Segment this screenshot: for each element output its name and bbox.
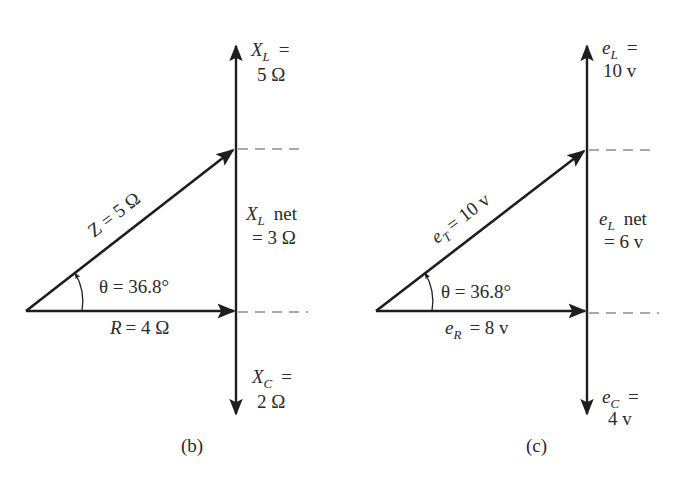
caption-c: (c) <box>526 435 547 457</box>
el-label: eL= <box>602 37 637 62</box>
angle-arc <box>75 273 83 311</box>
angle-label: θ = 36.8° <box>99 276 169 297</box>
xl-label: XL= <box>250 39 290 64</box>
xl-net-value: = 3 Ω <box>252 227 296 248</box>
xl-net-label: XLnet <box>245 203 298 228</box>
diagram-b-impedance: XL= 5 Ω XLnet = 3 Ω XC= 2 Ω Z = 5 Ω R= 4… <box>26 39 308 457</box>
el-value: 10 v <box>603 60 637 81</box>
diagram-c-voltage: eL= 10 v eLnet = 6 v eC= 4 v eT= 10 v eR… <box>376 37 659 457</box>
phasor-diagrams: XL= 5 Ω XLnet = 3 Ω XC= 2 Ω Z = 5 Ω R= 4… <box>0 0 681 481</box>
xc-label: XC= <box>251 366 292 391</box>
r-label: R= 4 Ω <box>109 317 169 338</box>
ec-value: 4 v <box>608 408 632 429</box>
el-net-label: eLnet <box>599 208 648 233</box>
et-label: eT= 10 v <box>427 188 497 250</box>
xl-value: 5 Ω <box>257 64 285 85</box>
angle-label-c: θ = 36.8° <box>441 281 511 302</box>
caption-b: (b) <box>181 435 203 457</box>
angle-arc-c <box>425 273 433 311</box>
z-label: Z = 5 Ω <box>84 188 144 241</box>
er-label: eR= 8 v <box>445 317 509 342</box>
xc-value: 2 Ω <box>257 391 285 412</box>
el-net-value: = 6 v <box>604 231 644 252</box>
